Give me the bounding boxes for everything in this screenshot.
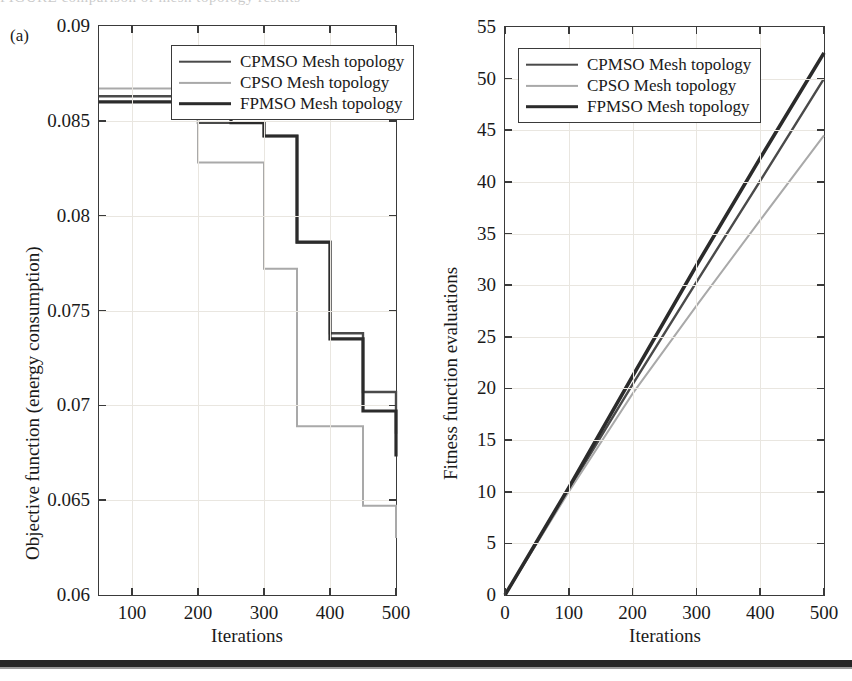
series-line [99, 96, 396, 434]
legend-swatch-fpmso [526, 100, 578, 114]
gridline-horizontal [505, 182, 824, 183]
y-tick-label: 0.075 [47, 299, 90, 321]
y-tick-right [817, 388, 824, 390]
x-tick-label: 100 [118, 602, 147, 624]
legend-row: CPSO Mesh topology [526, 75, 751, 96]
legend-row: FPMSO Mesh topology [526, 96, 751, 117]
y-tick [99, 405, 106, 407]
x-tick [823, 588, 825, 595]
x-tick-label: 400 [316, 602, 345, 624]
gridline-horizontal [99, 311, 396, 312]
y-tick-right [389, 310, 396, 312]
series-line [505, 53, 824, 595]
x-tick [568, 588, 570, 595]
x-tick-label: 300 [250, 602, 279, 624]
x-tick-top [395, 26, 397, 33]
x-tick-top [263, 26, 265, 33]
gridline-horizontal [505, 388, 824, 389]
bottom-rule-shadow [0, 667, 852, 669]
gridline-horizontal [99, 121, 396, 122]
y-tick [505, 439, 512, 441]
legend-label-cpso: CPSO Mesh topology [587, 77, 736, 94]
series-line [99, 102, 396, 457]
y-tick-label: 15 [477, 429, 496, 451]
legend-swatch-fpmso [179, 97, 231, 111]
series-line [505, 135, 824, 595]
y-tick-right [389, 499, 396, 501]
y-tick-right [817, 543, 824, 545]
x-tick [696, 588, 698, 595]
y-tick-label: 45 [477, 119, 496, 141]
gridline-horizontal [99, 216, 396, 217]
x-tick [759, 588, 761, 595]
y-tick [99, 215, 106, 217]
y-tick [505, 78, 512, 80]
x-tick-top [131, 26, 133, 33]
y-tick-right [817, 491, 824, 493]
y-tick-label: 5 [487, 532, 497, 554]
x-tick-label: 200 [618, 602, 647, 624]
x-tick [197, 588, 199, 595]
legend-row: CPMSO Mesh topology [526, 54, 751, 75]
y-tick [505, 491, 512, 493]
x-axis-title-fitness: Iterations [629, 625, 701, 647]
y-tick-label: 0.065 [47, 489, 90, 511]
gridline-horizontal [505, 234, 824, 235]
x-tick-top [759, 27, 761, 34]
legend-label-fpmso: FPMSO Mesh topology [587, 98, 749, 115]
panel-label-a: (a) [10, 26, 29, 46]
bottom-rule [0, 660, 852, 667]
legend-row: FPMSO Mesh topology [179, 93, 404, 114]
x-tick [131, 588, 133, 595]
y-tick [99, 120, 106, 122]
x-tick-label: 400 [746, 602, 775, 624]
y-tick [505, 284, 512, 286]
y-tick-label: 10 [477, 480, 496, 502]
gridline-horizontal [505, 337, 824, 338]
y-tick-right [817, 233, 824, 235]
y-tick-label: 0.085 [47, 109, 90, 131]
legend-swatch-cpmso [526, 58, 578, 72]
x-tick-top [568, 27, 570, 34]
x-tick-top [197, 26, 199, 33]
x-tick [263, 588, 265, 595]
y-tick-right [817, 336, 824, 338]
legend-label-cpmso: CPMSO Mesh topology [587, 56, 751, 73]
legend-fitness: CPMSO Mesh topology CPSO Mesh topology F… [518, 48, 761, 123]
gridline-horizontal [505, 285, 824, 286]
x-tick [632, 588, 634, 595]
y-tick [505, 543, 512, 545]
gridline-horizontal [505, 440, 824, 441]
legend-label-fpmso: FPMSO Mesh topology [240, 95, 402, 112]
x-tick [329, 588, 331, 595]
y-tick [505, 181, 512, 183]
legend-label-cpmso: CPMSO Mesh topology [240, 53, 404, 70]
y-tick-right [389, 215, 396, 217]
x-tick [504, 588, 506, 595]
y-axis-title-fitness: Fitness function evaluations [440, 267, 462, 480]
y-tick-label: 25 [477, 325, 496, 347]
x-tick-top [504, 27, 506, 34]
y-tick [505, 388, 512, 390]
y-tick-label: 55 [477, 16, 496, 38]
legend-objective: CPMSO Mesh topology CPSO Mesh topology F… [171, 45, 414, 120]
y-tick-right [817, 284, 824, 286]
y-tick [505, 233, 512, 235]
x-axis-title-objective: Iterations [211, 625, 283, 647]
x-tick-top [632, 27, 634, 34]
y-tick-label: 35 [477, 222, 496, 244]
y-tick-label: 40 [477, 170, 496, 192]
legend-label-cpso: CPSO Mesh topology [240, 74, 389, 91]
y-tick-right [817, 181, 824, 183]
y-tick [99, 310, 106, 312]
x-tick-label: 0 [500, 602, 510, 624]
gridline-horizontal [505, 130, 824, 131]
legend-row: CPMSO Mesh topology [179, 51, 404, 72]
series-line [99, 89, 396, 539]
y-tick-right [817, 78, 824, 80]
figure-page: FIGURE comparison of mesh topology resul… [0, 0, 852, 681]
y-tick-label: 50 [477, 67, 496, 89]
x-tick-label: 500 [810, 602, 839, 624]
y-tick-right [389, 405, 396, 407]
y-axis-title-objective: Objective function (energy consumption) [22, 246, 44, 560]
